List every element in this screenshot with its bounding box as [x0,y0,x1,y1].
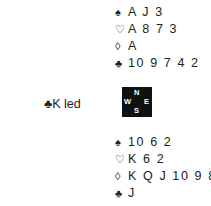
north-hand: ♠A J 3 ♡A 8 7 3 ◊A ♣10 9 7 4 2 [115,4,200,72]
compass-west: W [124,98,131,106]
compass-east: E [144,98,149,106]
heart-icon: ♡ [115,151,128,168]
south-hand: ♠10 6 2 ♡K 6 2 ◊K Q J 10 9 8 ♣J [115,134,211,202]
heart-icon: ♡ [115,21,128,38]
south-diamonds: ◊K Q J 10 9 8 [115,168,211,185]
compass-north: N [134,89,139,97]
compass-south: S [134,107,139,115]
north-clubs: ♣10 9 7 4 2 [115,55,200,72]
club-icon: ♣ [115,185,128,202]
south-hearts: ♡K 6 2 [115,151,211,168]
north-hearts: ♡A 8 7 3 [115,21,200,38]
spade-icon: ♠ [115,4,128,21]
spade-icon: ♠ [115,134,128,151]
north-diamonds: ◊A [115,38,200,55]
south-spades: ♠10 6 2 [115,134,211,151]
club-icon: ♣ [115,55,128,72]
opening-lead: ♣K led [44,96,81,113]
north-spades-cards: A J 3 [128,5,164,19]
north-diamonds-cards: A [128,39,138,53]
diamond-icon: ◊ [115,168,128,185]
diamond-icon: ◊ [115,38,128,55]
north-hearts-cards: A 8 7 3 [128,22,178,36]
north-spades: ♠A J 3 [115,4,200,21]
south-clubs-cards: J [128,186,136,200]
south-clubs: ♣J [115,185,211,202]
south-spades-cards: 10 6 2 [128,135,172,149]
north-clubs-cards: 10 9 7 4 2 [128,56,200,70]
compass-box: N W E S [122,87,152,117]
south-diamonds-cards: K Q J 10 9 8 [128,169,211,183]
south-hearts-cards: K 6 2 [128,152,165,166]
